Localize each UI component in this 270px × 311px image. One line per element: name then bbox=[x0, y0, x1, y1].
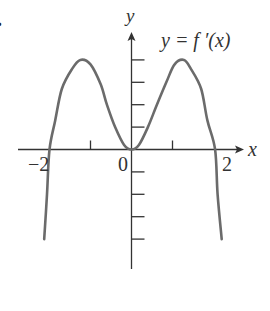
y-axis-label: y bbox=[124, 5, 135, 26]
plot-area: −202 x y y = f ′(x) bbox=[0, 0, 270, 311]
x-tick-label: 2 bbox=[222, 153, 232, 175]
x-tick-label: −2 bbox=[28, 153, 49, 175]
curve-label: y = f ′(x) bbox=[159, 29, 231, 52]
problem-marker: . bbox=[0, 8, 2, 31]
x-axis-label: x bbox=[247, 138, 257, 160]
derivative-graph: . −202 x y y = f ′(x) bbox=[0, 0, 270, 311]
x-tick-labels: −202 bbox=[28, 153, 232, 175]
x-tick-label: 0 bbox=[118, 153, 128, 175]
